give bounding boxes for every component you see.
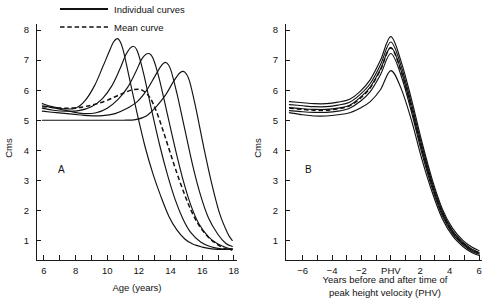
y-tick-label: 5: [273, 115, 278, 126]
individual-curve-path: [42, 62, 232, 246]
legend: Individual curves Mean curve: [60, 4, 185, 33]
individual-curve-path: [42, 71, 232, 240]
y-tick-label: 2: [273, 205, 278, 216]
x-tick-label: 12: [134, 265, 145, 276]
panel-b: 12345678−6−4−2PHV246 Cms Years before an…: [252, 24, 482, 298]
individual-curve-path: [289, 37, 479, 251]
y-tick-label: 7: [24, 54, 29, 65]
x-tick-label: 8: [73, 265, 78, 276]
figure-canvas: Individual curves Mean curve 12345678681…: [0, 0, 496, 302]
y-tick-label: 3: [273, 175, 278, 186]
y-tick-label: 1: [273, 235, 278, 246]
individual-curve-path: [289, 47, 479, 253]
legend-label-mean-curve: Mean curve: [114, 22, 164, 33]
panel-a-label: A: [58, 164, 65, 175]
panel-a-curves: [42, 39, 232, 250]
growth-velocity-figure: Individual curves Mean curve 12345678681…: [0, 0, 496, 302]
individual-curve-path: [289, 42, 479, 252]
x-tick-label: 16: [197, 265, 208, 276]
y-tick-label: 5: [24, 115, 29, 126]
panel-b-axes: 12345678−6−4−2PHV246: [273, 24, 482, 276]
panel-b-curves: [289, 37, 479, 256]
y-tick-label: 8: [24, 24, 29, 35]
y-tick-label: 6: [273, 85, 278, 96]
panel-b-x-axis-title-line1: Years before and after time of: [323, 274, 448, 285]
panel-b-y-axis-title: Cms: [252, 138, 263, 158]
panel-a: 12345678681012141618 Cms Age (years) A: [3, 24, 239, 293]
legend-label-individual-curves: Individual curves: [114, 4, 185, 15]
panel-b-x-axis-title-line2: peak height velocity (PHV): [329, 287, 441, 298]
panel-a-y-axis-title: Cms: [3, 138, 14, 158]
x-tick-label: 14: [165, 265, 176, 276]
panel-a-axes: 12345678681012141618: [24, 24, 239, 276]
x-tick-label: 4: [447, 265, 452, 276]
y-tick-label: 1: [24, 235, 29, 246]
x-tick-label: 6: [41, 265, 46, 276]
y-tick-label: 6: [24, 85, 29, 96]
mean-curve-path: [289, 48, 479, 253]
individual-curve-path: [42, 53, 232, 248]
panel-a-x-axis-title: Age (years): [112, 282, 161, 293]
y-tick-label: 8: [273, 24, 278, 35]
y-tick-label: 4: [24, 145, 29, 156]
x-tick-label: 10: [102, 265, 113, 276]
y-tick-label: 2: [24, 205, 29, 216]
x-tick-label: −6: [297, 265, 308, 276]
x-tick-label: 6: [476, 265, 481, 276]
y-tick-label: 3: [24, 175, 29, 186]
y-tick-label: 7: [273, 54, 278, 65]
y-tick-label: 4: [273, 145, 278, 156]
individual-curve-path: [42, 39, 232, 250]
x-tick-label: 18: [229, 265, 240, 276]
panel-b-label: B: [305, 164, 312, 175]
